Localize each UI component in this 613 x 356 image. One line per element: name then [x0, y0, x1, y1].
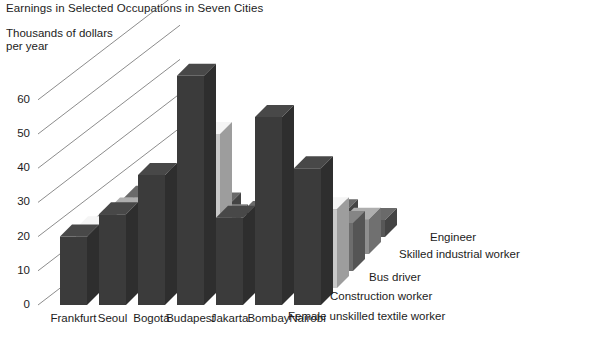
legend-label-female-unskilled-textile-worker: Female unskilled textile worker [288, 310, 445, 322]
y-tick-50: 50 [4, 127, 30, 139]
legend-label-bus-driver: Bus driver [369, 271, 421, 283]
y-tick-10: 10 [4, 264, 30, 276]
bar-engineer-nairobi [294, 156, 333, 305]
bar-engineer-frankfurt [60, 225, 99, 305]
y-tick-20: 20 [4, 230, 30, 242]
legend-label-construction-worker: Construction worker [330, 290, 432, 302]
bars [60, 64, 397, 305]
legend-label-skilled-industrial-worker: Skilled industrial worker [399, 248, 520, 260]
y-tick-0: 0 [4, 298, 30, 310]
plot-area [0, 0, 613, 356]
y-tick-30: 30 [4, 195, 30, 207]
bar-engineer-jakarta [216, 206, 255, 305]
y-tick-60: 60 [4, 93, 30, 105]
legend-label-engineer: Engineer [430, 231, 476, 243]
bar-engineer-bombay [255, 105, 294, 305]
y-tick-40: 40 [4, 161, 30, 173]
bar-engineer-bogotá [138, 163, 177, 305]
earnings-3d-bar-chart: Earnings in Selected Occupations in Seve… [0, 0, 613, 356]
bar-engineer-budapest [177, 64, 216, 305]
bar-engineer-seoul [99, 202, 138, 305]
